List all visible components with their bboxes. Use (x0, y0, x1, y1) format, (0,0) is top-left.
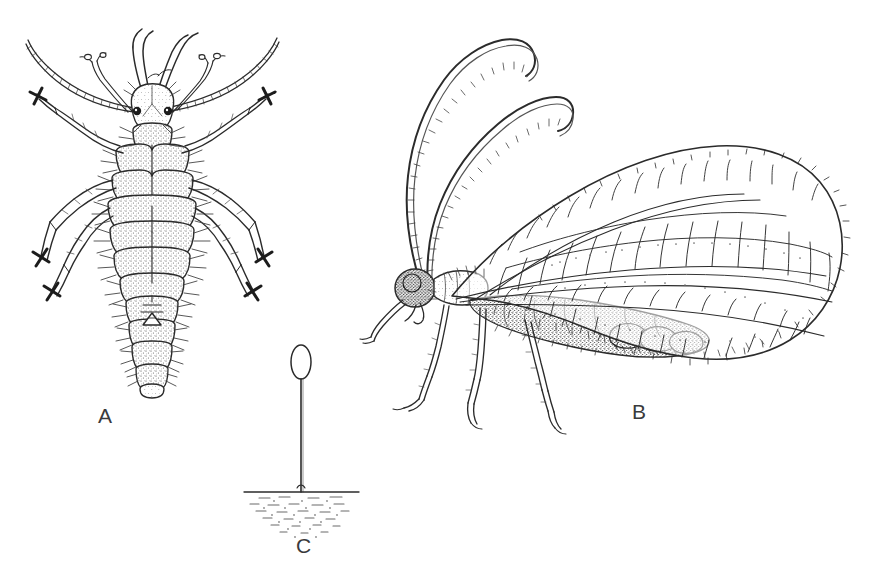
panel-label-c: C (296, 534, 312, 558)
figure-plate: A B C (0, 0, 886, 575)
illustration-canvas (0, 0, 886, 575)
panel-label-b: B (632, 400, 647, 424)
panel-label-a: A (98, 404, 113, 428)
egg-body (291, 345, 311, 379)
larva-terminal-segment (140, 384, 164, 398)
larva-eye-left (133, 107, 141, 115)
larva-eye-right (164, 107, 172, 115)
